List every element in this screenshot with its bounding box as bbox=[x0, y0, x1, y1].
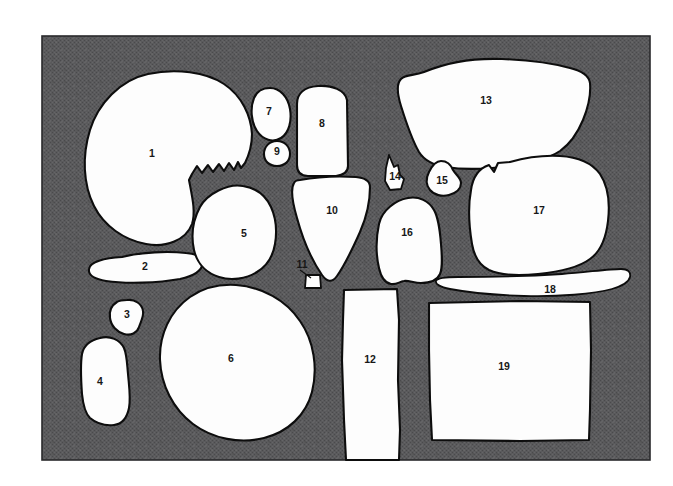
artifact-plate-svg: 1 2 3 4 5 6 7 8 9 10 11 12 13 14 15 16 1… bbox=[0, 0, 673, 486]
artifact-label-15: 15 bbox=[436, 174, 448, 186]
artifact-label-8: 8 bbox=[319, 117, 325, 129]
artifact-label-9: 9 bbox=[274, 145, 280, 157]
artifact-label-16: 16 bbox=[401, 226, 413, 238]
artifact-shape-12 bbox=[342, 289, 400, 460]
artifact-label-14: 14 bbox=[389, 170, 401, 182]
artifact-label-4: 4 bbox=[97, 375, 103, 387]
artifact-label-7: 7 bbox=[266, 105, 272, 117]
artifact-label-5: 5 bbox=[241, 227, 247, 239]
artifact-shape-19 bbox=[429, 301, 591, 441]
artifact-label-12: 12 bbox=[364, 353, 376, 365]
artifact-label-1: 1 bbox=[149, 147, 155, 159]
artifact-label-6: 6 bbox=[228, 352, 234, 364]
artifact-label-17: 17 bbox=[533, 204, 545, 216]
artifact-label-10: 10 bbox=[326, 204, 338, 216]
artifact-shape-11 bbox=[305, 275, 321, 288]
artifact-shape-16 bbox=[377, 198, 442, 285]
artifact-label-18: 18 bbox=[544, 283, 556, 295]
figure-root: 1 2 3 4 5 6 7 8 9 10 11 12 13 14 15 16 1… bbox=[0, 0, 673, 486]
artifact-shape-8 bbox=[297, 86, 348, 176]
artifact-label-13: 13 bbox=[480, 94, 492, 106]
artifact-shape-4 bbox=[81, 337, 130, 425]
artifact-label-19: 19 bbox=[498, 360, 510, 372]
artifact-label-2: 2 bbox=[142, 260, 148, 272]
artifact-label-11: 11 bbox=[296, 258, 307, 270]
artifact-shape-5 bbox=[193, 186, 276, 280]
artifact-label-3: 3 bbox=[124, 308, 130, 320]
